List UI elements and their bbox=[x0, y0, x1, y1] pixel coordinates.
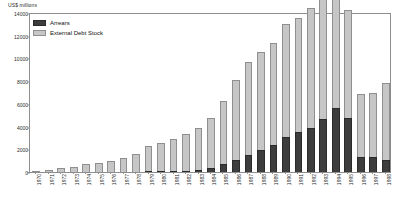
bar-column[interactable] bbox=[82, 164, 90, 172]
x-axis-tick-label: 1996 bbox=[362, 174, 367, 185]
bar-segment-arrears bbox=[232, 160, 240, 172]
x-axis-tick-label: 1979 bbox=[150, 174, 155, 185]
bar-column[interactable] bbox=[307, 8, 315, 172]
x-axis-tick-label: 1984 bbox=[212, 174, 217, 185]
bar-segment-arrears bbox=[282, 137, 290, 172]
bar-column[interactable] bbox=[95, 163, 103, 172]
bar-segment-external-debt-stock bbox=[295, 18, 303, 133]
x-axis-tick-label: 1995 bbox=[349, 174, 354, 185]
x-axis-tick-label: 1987 bbox=[249, 174, 254, 185]
legend-item: Arrears bbox=[33, 19, 103, 27]
bar-segment-arrears bbox=[220, 164, 228, 172]
bar-column[interactable] bbox=[382, 83, 390, 172]
bar-column[interactable] bbox=[145, 146, 153, 172]
bar-segment-external-debt-stock bbox=[257, 52, 265, 151]
x-axis-tick-label: 1983 bbox=[200, 174, 205, 185]
bar-column[interactable] bbox=[357, 94, 365, 172]
bar-column[interactable] bbox=[245, 62, 253, 172]
bar-segment-arrears bbox=[295, 132, 303, 172]
bar-segment-external-debt-stock bbox=[344, 10, 352, 118]
bar-column[interactable] bbox=[369, 93, 377, 172]
bar-column[interactable] bbox=[182, 134, 190, 172]
bar-segment-external-debt-stock bbox=[282, 24, 290, 136]
x-axis-tick-label: 1993 bbox=[324, 174, 329, 185]
bar-segment-arrears bbox=[307, 128, 315, 172]
y-axis-tick-label: 14000 bbox=[14, 12, 28, 17]
y-axis-unit-label: US$ millions bbox=[8, 2, 37, 8]
bar-segment-external-debt-stock bbox=[107, 161, 115, 172]
bar-segment-external-debt-stock bbox=[319, 0, 327, 119]
x-axis-tick-label: 1972 bbox=[62, 174, 67, 185]
bar-segment-arrears bbox=[344, 118, 352, 172]
bar-column[interactable] bbox=[170, 139, 178, 172]
bar-segment-external-debt-stock bbox=[157, 143, 165, 171]
bar-segment-arrears bbox=[357, 157, 365, 172]
bar-segment-external-debt-stock bbox=[245, 62, 253, 155]
x-axis-tick-label: 1971 bbox=[50, 174, 55, 185]
x-axis-tick-label: 1994 bbox=[337, 174, 342, 185]
bar-segment-external-debt-stock bbox=[270, 43, 278, 145]
bar-column[interactable] bbox=[107, 161, 115, 172]
x-axis-tick-label: 1981 bbox=[175, 174, 180, 185]
bar-segment-arrears bbox=[319, 119, 327, 172]
bar-segment-external-debt-stock bbox=[132, 154, 140, 172]
x-axis-tick-label: 1978 bbox=[137, 174, 142, 185]
bar-column[interactable] bbox=[120, 158, 128, 172]
x-axis-tick-label: 1980 bbox=[162, 174, 167, 185]
legend-label: External Debt Stock bbox=[50, 30, 103, 37]
bar-segment-external-debt-stock bbox=[95, 163, 103, 172]
x-axis-tick-label: 1977 bbox=[125, 174, 130, 185]
bar-column[interactable] bbox=[344, 10, 352, 172]
x-axis-tick-label: 1974 bbox=[87, 174, 92, 185]
bar-segment-external-debt-stock bbox=[182, 134, 190, 170]
bar-segment-external-debt-stock bbox=[307, 8, 315, 127]
bar-column[interactable] bbox=[270, 43, 278, 172]
legend-swatch-arrears bbox=[33, 20, 46, 26]
x-axis-tick-label: 1976 bbox=[112, 174, 117, 185]
bar-segment-external-debt-stock bbox=[120, 158, 128, 172]
chart-container: US$ millions 020004000600080001000012000… bbox=[0, 0, 396, 198]
x-axis-labels: 1970197119721973197419751976197719781979… bbox=[29, 173, 391, 198]
bar-column[interactable] bbox=[332, 0, 340, 172]
bar-segment-external-debt-stock bbox=[195, 128, 203, 170]
bar-segment-arrears bbox=[332, 108, 340, 172]
x-axis-tick-label: 1985 bbox=[224, 174, 229, 185]
x-axis-tick-label: 1986 bbox=[237, 174, 242, 185]
x-axis-tick-label: 1988 bbox=[262, 174, 267, 185]
x-axis-tick-label: 1991 bbox=[299, 174, 304, 185]
x-axis-tick-label: 1970 bbox=[37, 174, 42, 185]
bar-segment-arrears bbox=[270, 145, 278, 172]
bar-column[interactable] bbox=[132, 154, 140, 172]
chart-legend: ArrearsExternal Debt Stock bbox=[33, 19, 103, 39]
bar-segment-external-debt-stock bbox=[82, 164, 90, 172]
bar-column[interactable] bbox=[232, 80, 240, 172]
bar-segment-arrears bbox=[369, 157, 377, 172]
x-axis-tick-label: 1990 bbox=[287, 174, 292, 185]
bar-column[interactable] bbox=[282, 24, 290, 172]
bar-segment-external-debt-stock bbox=[332, 0, 340, 108]
bar-column[interactable] bbox=[195, 128, 203, 172]
x-axis-tick-label: 1997 bbox=[374, 174, 379, 185]
bar-column[interactable] bbox=[220, 101, 228, 172]
bar-column[interactable] bbox=[207, 118, 215, 172]
legend-item: External Debt Stock bbox=[33, 29, 103, 37]
x-axis-tick-label: 1982 bbox=[187, 174, 192, 185]
bar-segment-external-debt-stock bbox=[232, 80, 240, 160]
bar-column[interactable] bbox=[295, 18, 303, 172]
bar-segment-external-debt-stock bbox=[207, 118, 215, 168]
bar-segment-arrears bbox=[382, 160, 390, 172]
x-axis-tick-label: 1975 bbox=[100, 174, 105, 185]
bar-column[interactable] bbox=[157, 143, 165, 172]
y-axis-tick-label: 12000 bbox=[14, 34, 28, 39]
bar-segment-external-debt-stock bbox=[220, 101, 228, 164]
bar-segment-external-debt-stock bbox=[369, 93, 377, 157]
x-axis-tick-label: 1998 bbox=[387, 174, 392, 185]
bar-column[interactable] bbox=[319, 0, 327, 172]
bar-segment-arrears bbox=[245, 155, 253, 172]
x-axis-tick-label: 1992 bbox=[312, 174, 317, 185]
bar-column[interactable] bbox=[257, 52, 265, 172]
x-axis-tick-label: 1973 bbox=[75, 174, 80, 185]
legend-swatch-stock bbox=[33, 30, 46, 36]
bar-segment-external-debt-stock bbox=[170, 139, 178, 171]
bar-segment-arrears bbox=[257, 150, 265, 172]
